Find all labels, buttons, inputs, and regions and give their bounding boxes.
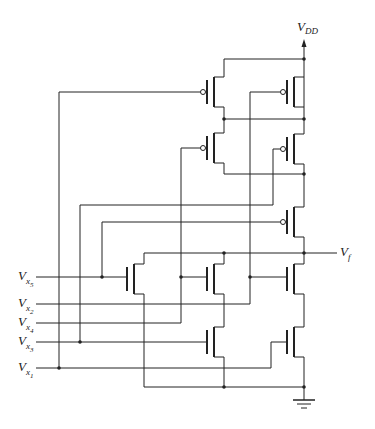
pmos-x3 [80, 119, 304, 205]
vf-label: Vf [340, 244, 352, 262]
input-label-x3: Vx3 [18, 333, 34, 354]
pmos-x5 [102, 174, 304, 277]
vdd-label: VDD [297, 19, 318, 36]
ground-symbol [293, 400, 315, 408]
input-label-x5: Vx5 [18, 268, 34, 289]
input-label-x1: Vx1 [18, 359, 33, 380]
cmos-circuit-diagram: VDD Vf Vx5 Vx2 Vx4 Vx3 Vx1 [0, 0, 375, 429]
nmos-x2 [250, 253, 304, 327]
pmos-x2 [250, 77, 304, 107]
input-label-x2: Vx2 [18, 295, 34, 316]
nmos-x3 [207, 327, 224, 387]
junction-dots [57, 57, 306, 389]
pmos-x1 [59, 59, 224, 119]
input-label-x4: Vx4 [18, 314, 34, 335]
nmos-x1 [271, 327, 304, 400]
nmos-x4 [181, 253, 224, 327]
pmos-x4 [181, 119, 224, 174]
nmos-x5 [127, 253, 144, 387]
